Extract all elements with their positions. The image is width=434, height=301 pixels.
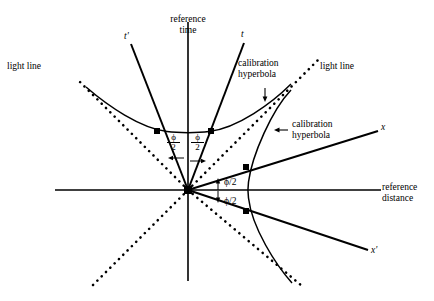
marker-x-hyperbola	[243, 164, 249, 170]
calibration-hyperbola-right-label: calibration hyperbola	[292, 119, 333, 141]
t-axis	[188, 43, 244, 190]
reference-time-line1: reference	[170, 14, 205, 24]
angle-phi-half-right-numerator: ϕ	[191, 133, 204, 142]
t-prime-axis	[131, 44, 188, 190]
reference-distance-line2: distance	[382, 193, 434, 204]
x-prime-axis	[188, 190, 368, 250]
light-line-lower-left	[89, 190, 188, 289]
reference-distance-line1: reference	[382, 182, 417, 192]
x-axis	[188, 131, 378, 190]
angle-phi-half-right-denominator: 2	[191, 142, 204, 152]
marker-x-prime-hyperbola	[243, 208, 249, 214]
calibration-hyperbola-right-line1: calibration	[292, 119, 333, 129]
marker-t-prime-hyperbola	[154, 128, 160, 134]
light-line-lower-right	[188, 190, 302, 286]
marker-origin	[184, 186, 192, 194]
calibration-hyperbola-upper-label: calibration hyperbola	[238, 58, 279, 80]
angle-phi-half-left-numerator: ϕ	[167, 133, 180, 142]
minkowski-spacetime-diagram: reference time reference distance light …	[0, 0, 434, 301]
axis-label-x-prime: x'	[371, 245, 377, 255]
calibration-hyperbola-right	[248, 90, 292, 283]
angle-phi-half-below-x-label: ϕ/2	[224, 196, 236, 206]
calibration-hyperbola-upper-line2: hyperbola	[238, 69, 276, 79]
marker-t-hyperbola	[208, 128, 214, 134]
reference-distance-label: reference distance	[382, 182, 434, 204]
axis-label-t-prime: t'	[124, 31, 129, 41]
angle-phi-half-right: ϕ 2	[191, 133, 204, 152]
arrow-to-right-hyperbola	[274, 128, 288, 133]
axis-label-x: x	[381, 122, 385, 132]
diagram-canvas	[0, 0, 434, 301]
calibration-hyperbola-upper-line1: calibration	[238, 58, 279, 68]
light-line-left-label: light line	[7, 61, 41, 72]
angle-phi-half-above-x-label: ϕ/2	[224, 177, 236, 187]
reference-time-line2: time	[180, 25, 197, 35]
arrow-to-upper-hyperbola	[263, 88, 268, 102]
angle-phi-half-left: ϕ 2	[167, 133, 180, 152]
reference-time-label: reference time	[156, 14, 220, 36]
axis-label-t: t	[241, 29, 244, 39]
angle-phi-half-left-denominator: 2	[167, 142, 180, 152]
light-line-right-label: light line	[320, 61, 354, 72]
calibration-hyperbola-right-line2: hyperbola	[292, 130, 330, 140]
